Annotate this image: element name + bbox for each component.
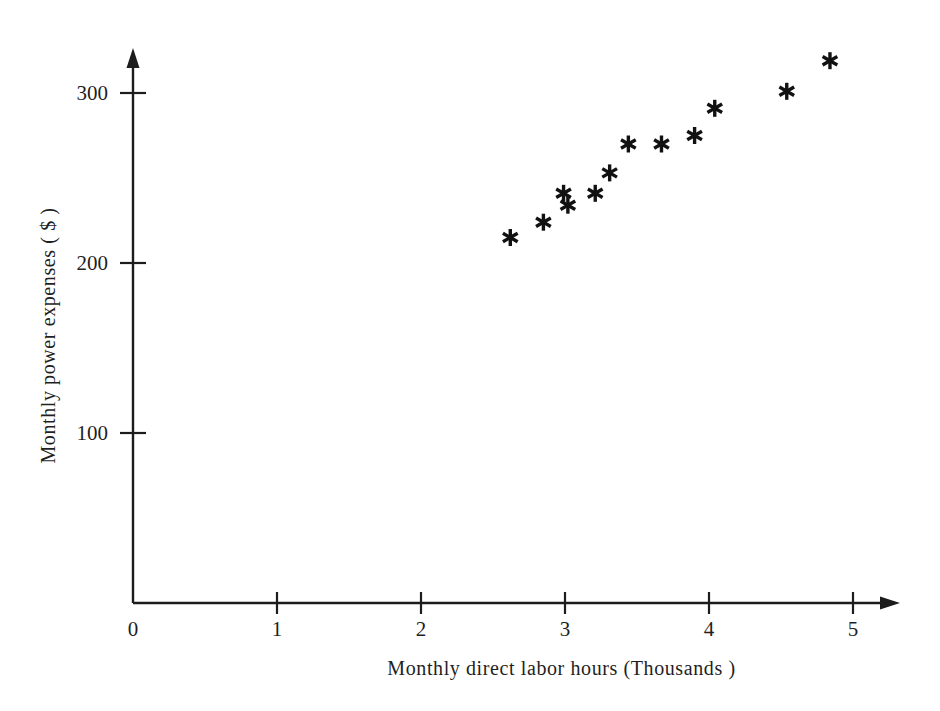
x-tick-label-2: 2	[416, 617, 427, 641]
data-point-12	[823, 52, 838, 69]
data-point-1	[503, 229, 518, 246]
data-point-9	[687, 127, 702, 144]
data-point-8	[654, 136, 669, 153]
x-tick-label-0: 0	[128, 617, 139, 641]
data-point-2	[536, 214, 551, 231]
ticks-group	[120, 93, 853, 614]
plot-canvas: 012345100200300 Monthly direct labor hou…	[0, 0, 940, 711]
data-point-6	[602, 164, 617, 181]
data-point-5	[588, 185, 603, 202]
y-tick-label-200: 200	[77, 251, 109, 275]
data-point-11	[779, 83, 794, 100]
y-tick-label-300: 300	[77, 81, 109, 105]
axes-group	[127, 48, 901, 610]
y-axis-title: Monthly power expenses ( $ )	[37, 207, 60, 463]
data-point-10	[707, 100, 722, 117]
data-point-7	[621, 136, 636, 153]
x-tick-label-5: 5	[848, 617, 859, 641]
x-tick-label-4: 4	[704, 617, 715, 641]
x-axis-title: Monthly direct labor hours (Thousands )	[387, 657, 735, 680]
tick-labels-group: 012345100200300	[77, 81, 859, 641]
data-markers-group	[503, 52, 837, 246]
y-tick-label-100: 100	[77, 421, 109, 445]
y-axis-arrow-icon	[127, 48, 140, 68]
scatter-plot-figure: 012345100200300 Monthly direct labor hou…	[0, 0, 940, 711]
x-axis-arrow-icon	[880, 597, 900, 610]
x-tick-label-3: 3	[560, 617, 571, 641]
x-tick-label-1: 1	[272, 617, 283, 641]
axis-titles-group: Monthly direct labor hours (Thousands )M…	[37, 207, 736, 680]
